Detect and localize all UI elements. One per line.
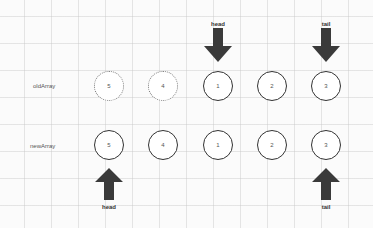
- node-value: 1: [216, 142, 219, 148]
- node-value: 2: [270, 83, 273, 89]
- node-value: 4: [161, 142, 164, 148]
- old-array-node-4: 4: [148, 71, 178, 101]
- new-tail-pointer: tail: [312, 168, 340, 211]
- arrow-down-icon: [204, 28, 232, 62]
- arrow-up-icon: [95, 168, 123, 200]
- node-value: 3: [324, 142, 327, 148]
- node-value: 1: [216, 83, 219, 89]
- old-array-label: oldArray: [33, 82, 55, 90]
- new-array-node-5: 5: [94, 130, 124, 160]
- node-value: 5: [107, 83, 110, 89]
- tail-label: tail: [322, 203, 331, 211]
- head-label: head: [102, 203, 116, 211]
- old-head-pointer: head: [204, 20, 232, 62]
- new-head-pointer: head: [95, 168, 123, 211]
- new-array-label: newArray: [30, 142, 55, 150]
- new-array-node-3: 3: [311, 130, 341, 160]
- arrow-down-icon: [312, 28, 340, 62]
- old-array-node-5: 5: [94, 71, 124, 101]
- node-value: 5: [107, 142, 110, 148]
- new-array-node-2: 2: [257, 130, 287, 160]
- node-value: 4: [161, 83, 164, 89]
- grid-canvas: oldArray newArray 5 4 1 2 3 5 4 1 2 3 he…: [0, 0, 373, 228]
- old-array-node-2: 2: [257, 71, 287, 101]
- old-array-node-3: 3: [311, 71, 341, 101]
- old-array-node-1: 1: [203, 71, 233, 101]
- node-value: 3: [324, 83, 327, 89]
- tail-label: tail: [322, 20, 331, 28]
- new-array-node-4: 4: [148, 130, 178, 160]
- head-label: head: [211, 20, 225, 28]
- node-value: 2: [270, 142, 273, 148]
- arrow-up-icon: [312, 168, 340, 200]
- new-array-node-1: 1: [203, 130, 233, 160]
- old-tail-pointer: tail: [312, 20, 340, 62]
